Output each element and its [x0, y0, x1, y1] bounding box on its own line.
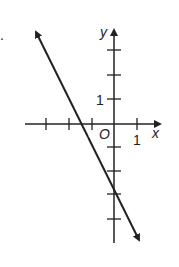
x-axis-label: x	[151, 125, 160, 141]
x-unit-label: 1	[133, 132, 141, 148]
graph-line-upper	[36, 32, 88, 137]
y-unit-label: 1	[96, 92, 104, 108]
origin-label: O	[99, 126, 110, 142]
y-axis-label: y	[99, 24, 108, 40]
coordinate-plane: y x O 1 1	[0, 0, 179, 267]
